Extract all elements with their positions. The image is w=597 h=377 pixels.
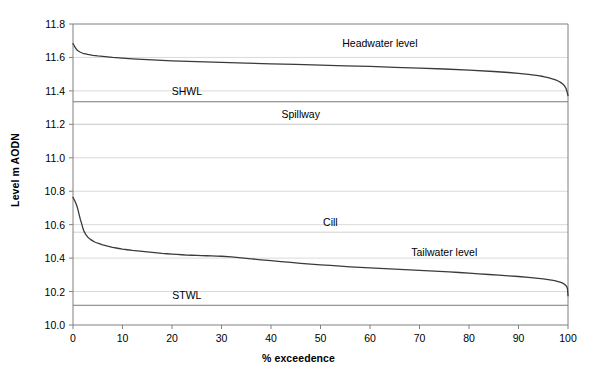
x-tick-label: 70 — [414, 332, 426, 344]
x-tick-label: 10 — [117, 332, 129, 344]
series-label-headwater-level: Headwater level — [342, 37, 417, 49]
series-label-tailwater-level: Tailwater level — [411, 246, 477, 258]
y-tick-label: 10.0 — [45, 319, 66, 331]
x-tick-label: 0 — [70, 332, 76, 344]
reference-label-shwl: SHWL — [172, 85, 202, 97]
series-line-headwater-level — [73, 44, 568, 96]
x-axis-title-text: % exceedence — [262, 352, 335, 364]
exceedence-chart: SHWLSpillwayCillSTWL 10.010.210.410.610.… — [0, 0, 597, 377]
chart-container: SHWLSpillwayCillSTWL 10.010.210.410.610.… — [0, 0, 597, 377]
x-tick-label: 90 — [513, 332, 525, 344]
x-tick-label: 100 — [559, 332, 577, 344]
y-tick-label: 11.0 — [45, 152, 65, 164]
y-tick-label: 10.2 — [45, 286, 66, 298]
x-tick-label: 80 — [463, 332, 475, 344]
gridlines — [73, 57, 568, 291]
x-tick-label: 30 — [216, 332, 228, 344]
y-tick-label: 10.4 — [45, 252, 66, 264]
x-tick-label: 40 — [265, 332, 277, 344]
x-tick-label: 50 — [315, 332, 327, 344]
reference-label-spillway: Spillway — [281, 108, 320, 120]
y-tick-label: 11.2 — [45, 118, 65, 130]
x-tick-label: 20 — [166, 332, 178, 344]
y-tick-label: 10.8 — [45, 185, 66, 197]
axis-ticks — [69, 24, 568, 329]
tick-labels: 10.010.210.410.610.811.011.211.411.611.8… — [45, 18, 577, 344]
reference-lines: SHWLSpillwayCillSTWL — [73, 85, 568, 305]
series-annotations: Headwater levelTailwater level — [342, 37, 477, 258]
y-tick-label: 11.6 — [45, 51, 65, 63]
y-tick-label: 11.4 — [45, 85, 65, 97]
y-tick-label: 11.8 — [45, 18, 65, 30]
x-axis-title: % exceedence — [0, 348, 597, 366]
reference-label-stwl: STWL — [172, 289, 201, 301]
series-line-tailwater-level — [73, 197, 568, 295]
y-axis-title: Level m AODN — [4, 0, 26, 340]
reference-label-cill: Cill — [323, 216, 338, 228]
y-tick-label: 10.6 — [45, 219, 66, 231]
plot-frame — [73, 24, 568, 325]
y-axis-title-text: Level m AODN — [9, 133, 21, 207]
x-tick-label: 60 — [364, 332, 376, 344]
